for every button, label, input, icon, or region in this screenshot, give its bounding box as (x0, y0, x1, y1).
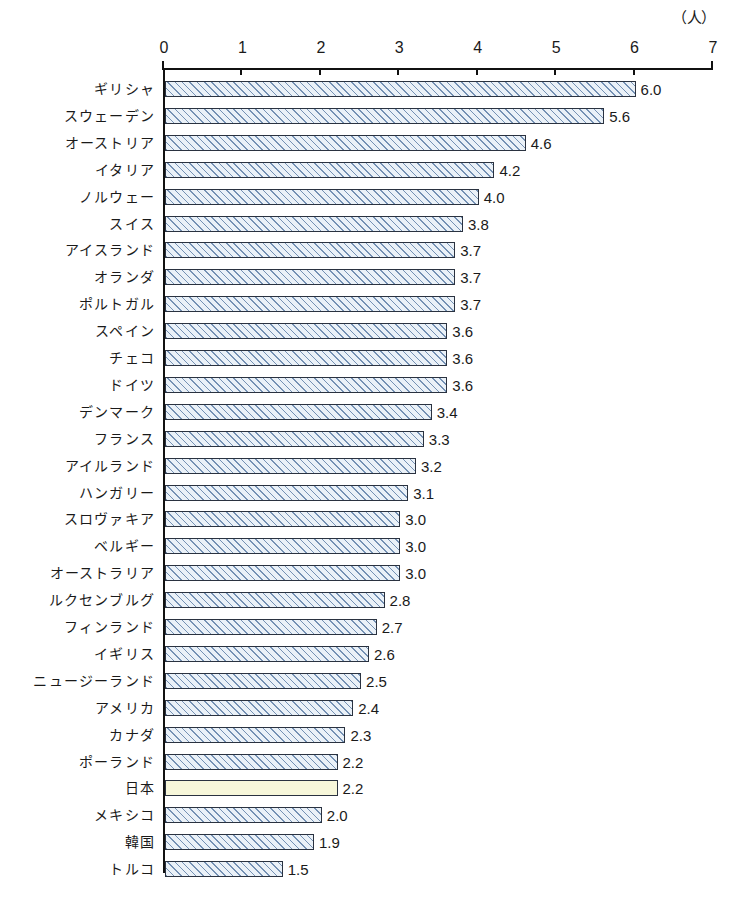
bar-イタリア (165, 162, 494, 178)
bar-スペイン (165, 323, 447, 339)
chart-row: アイルランド3.2 (0, 453, 753, 480)
bar-メキシコ (165, 807, 322, 823)
chart-row: ハンガリー3.1 (0, 480, 753, 507)
chart-row: ニュージーランド2.5 (0, 668, 753, 695)
chart-row: ノルウェー4.0 (0, 184, 753, 211)
category-label-ハンガリー: ハンガリー (0, 480, 155, 507)
chart-row: 日本2.2 (0, 775, 753, 802)
category-label-オランダ: オランダ (0, 264, 155, 291)
bar-ポーランド (165, 754, 338, 770)
category-label-チェコ: チェコ (0, 345, 155, 372)
value-label-ルクセンブルグ: 2.8 (390, 587, 411, 614)
category-label-デンマーク: デンマーク (0, 399, 155, 426)
category-label-ルクセンブルグ: ルクセンブルグ (0, 587, 155, 614)
bar-ギリシャ (165, 81, 636, 97)
value-label-ベルギー: 3.0 (405, 533, 426, 560)
bar-スイス (165, 216, 463, 232)
bar-スウェーデン (165, 108, 604, 124)
value-label-オランダ: 3.7 (460, 264, 481, 291)
chart-row: トルコ1.5 (0, 856, 753, 883)
chart-row: フィンランド2.7 (0, 614, 753, 641)
value-label-スロヴァキア: 3.0 (405, 506, 426, 533)
bar-ニュージーランド (165, 673, 361, 689)
chart-row: スウェーデン5.6 (0, 103, 753, 130)
value-label-ギリシャ: 6.0 (641, 76, 662, 103)
value-label-スイス: 3.8 (468, 211, 489, 238)
category-label-ベルギー: ベルギー (0, 533, 155, 560)
category-label-ポルトガル: ポルトガル (0, 291, 155, 318)
bar-フィンランド (165, 619, 377, 635)
category-label-韓国: 韓国 (0, 829, 155, 856)
bar-オーストラリア (165, 565, 400, 581)
value-label-トルコ: 1.5 (288, 856, 309, 883)
chart-row: アメリカ2.4 (0, 695, 753, 722)
category-label-フィンランド: フィンランド (0, 614, 155, 641)
category-label-トルコ: トルコ (0, 856, 155, 883)
value-label-ノルウェー: 4.0 (484, 184, 505, 211)
bar-トルコ (165, 861, 283, 877)
value-label-フランス: 3.3 (429, 426, 450, 453)
category-label-スウェーデン: スウェーデン (0, 103, 155, 130)
value-label-オーストリア: 4.6 (531, 130, 552, 157)
value-label-アイスランド: 3.7 (460, 237, 481, 264)
value-label-イギリス: 2.6 (374, 641, 395, 668)
bar-ポルトガル (165, 296, 455, 312)
bar-アイスランド (165, 242, 455, 258)
bar-ノルウェー (165, 189, 479, 205)
chart-row: カナダ2.3 (0, 722, 753, 749)
chart-row: オランダ3.7 (0, 264, 753, 291)
bar-チェコ (165, 350, 447, 366)
chart-row: ギリシャ6.0 (0, 76, 753, 103)
bar-日本 (165, 780, 338, 796)
value-label-デンマーク: 3.4 (437, 399, 458, 426)
category-label-アイルランド: アイルランド (0, 453, 155, 480)
chart-row: オーストリア4.6 (0, 130, 753, 157)
value-label-ポルトガル: 3.7 (460, 291, 481, 318)
bar-アイルランド (165, 458, 416, 474)
value-label-フィンランド: 2.7 (382, 614, 403, 641)
chart-rows: ギリシャ6.0スウェーデン5.6オーストリア4.6イタリア4.2ノルウェー4.0… (0, 0, 753, 917)
category-label-ポーランド: ポーランド (0, 749, 155, 776)
value-label-チェコ: 3.6 (452, 345, 473, 372)
category-label-スロヴァキア: スロヴァキア (0, 506, 155, 533)
value-label-アイルランド: 3.2 (421, 453, 442, 480)
category-label-オーストラリア: オーストラリア (0, 560, 155, 587)
bar-ルクセンブルグ (165, 592, 385, 608)
chart-row: メキシコ2.0 (0, 802, 753, 829)
chart-row: チェコ3.6 (0, 345, 753, 372)
chart-row: スロヴァキア3.0 (0, 506, 753, 533)
bar-ベルギー (165, 538, 400, 554)
value-label-ポーランド: 2.2 (343, 749, 364, 776)
chart-row: ルクセンブルグ2.8 (0, 587, 753, 614)
value-label-ニュージーランド: 2.5 (366, 668, 387, 695)
category-label-イギリス: イギリス (0, 641, 155, 668)
category-label-ニュージーランド: ニュージーランド (0, 668, 155, 695)
bar-ドイツ (165, 377, 447, 393)
chart-row: イタリア4.2 (0, 157, 753, 184)
category-label-ドイツ: ドイツ (0, 372, 155, 399)
chart-row: ドイツ3.6 (0, 372, 753, 399)
category-label-アメリカ: アメリカ (0, 695, 155, 722)
category-label-フランス: フランス (0, 426, 155, 453)
value-label-日本: 2.2 (343, 775, 364, 802)
bar-アメリカ (165, 700, 353, 716)
category-label-メキシコ: メキシコ (0, 802, 155, 829)
chart-row: イギリス2.6 (0, 641, 753, 668)
bar-フランス (165, 431, 424, 447)
chart-row: スイス3.8 (0, 211, 753, 238)
bar-スロヴァキア (165, 511, 400, 527)
chart-row: ベルギー3.0 (0, 533, 753, 560)
category-label-オーストリア: オーストリア (0, 130, 155, 157)
category-label-カナダ: カナダ (0, 722, 155, 749)
chart-row: フランス3.3 (0, 426, 753, 453)
bar-韓国 (165, 834, 314, 850)
value-label-韓国: 1.9 (319, 829, 340, 856)
category-label-ノルウェー: ノルウェー (0, 184, 155, 211)
category-label-ギリシャ: ギリシャ (0, 76, 155, 103)
bar-イギリス (165, 646, 369, 662)
bar-オーストリア (165, 135, 526, 151)
bar-ハンガリー (165, 485, 408, 501)
chart-row: ポルトガル3.7 (0, 291, 753, 318)
value-label-アメリカ: 2.4 (358, 695, 379, 722)
chart-row: デンマーク3.4 (0, 399, 753, 426)
